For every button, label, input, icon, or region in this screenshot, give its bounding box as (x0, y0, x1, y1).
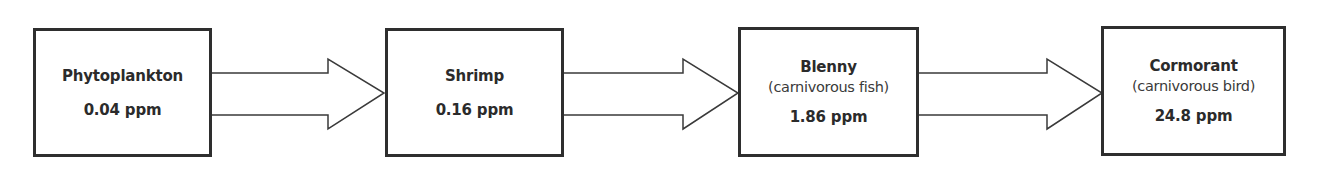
node-description: (carnivorous fish) (768, 77, 889, 97)
node-value: 0.04 ppm (84, 100, 162, 120)
node-value: 0.16 ppm (436, 100, 514, 120)
node-description: (carnivorous bird) (1132, 76, 1255, 96)
node-cormorant: Cormorant (carnivorous bird) 24.8 ppm (1101, 26, 1286, 156)
node-value: 24.8 ppm (1155, 106, 1233, 126)
node-name: Blenny (800, 57, 857, 77)
arrow-phytoplankton-to-shrimp (211, 59, 384, 129)
node-phytoplankton: Phytoplankton 0.04 ppm (33, 28, 212, 157)
arrow-shrimp-to-blenny (563, 59, 738, 129)
arrow-blenny-to-cormorant (918, 59, 1102, 129)
node-name: Cormorant (1149, 56, 1237, 76)
node-name: Phytoplankton (62, 66, 183, 86)
node-shrimp: Shrimp 0.16 ppm (385, 28, 564, 157)
node-name: Shrimp (445, 66, 504, 86)
node-blenny: Blenny (carnivorous fish) 1.86 ppm (738, 27, 919, 157)
node-value: 1.86 ppm (790, 107, 868, 127)
